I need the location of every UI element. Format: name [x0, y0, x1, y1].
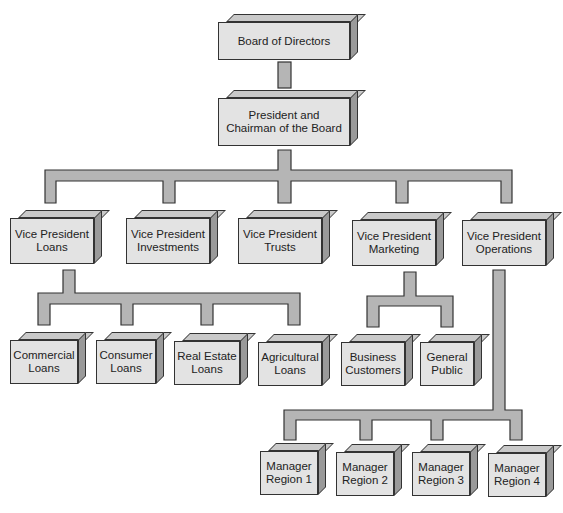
node-vp-marketing: Vice President Marketing	[352, 212, 444, 266]
node-label: Vice President Investments	[129, 228, 207, 254]
node-agricultural-loans: Agricultural Loans	[258, 334, 330, 386]
node-manager-region-4: Manager Region 4	[488, 445, 554, 497]
node-vp-operations: Vice President Operations	[462, 212, 554, 266]
node-president: President and Chairman of the Board	[218, 90, 358, 146]
node-label: Vice President Trusts	[241, 228, 319, 254]
node-manager-region-1: Manager Region 1	[260, 443, 326, 495]
node-label: Business Customers	[343, 351, 403, 377]
node-label: Agricultural Loans	[259, 351, 321, 377]
node-label: Vice President Operations	[465, 230, 543, 256]
node-consumer-loans: Consumer Loans	[96, 332, 164, 384]
node-label: Board of Directors	[236, 35, 333, 48]
node-label: Manager Region 4	[492, 462, 542, 488]
node-board-of-directors: Board of Directors	[218, 14, 358, 60]
node-real-estate-loans: Real Estate Loans	[174, 333, 248, 385]
node-commercial-loans: Commercial Loans	[10, 332, 86, 384]
node-label: Vice President Loans	[13, 228, 91, 254]
node-vp-loans: Vice President Loans	[10, 210, 102, 264]
node-vp-trusts: Vice President Trusts	[238, 210, 330, 264]
node-label: Manager Region 3	[416, 461, 466, 487]
node-label: Commercial Loans	[11, 349, 76, 375]
node-label: Vice President Marketing	[355, 230, 433, 256]
node-manager-region-3: Manager Region 3	[412, 444, 478, 496]
node-label: Consumer Loans	[97, 349, 154, 375]
node-label: President and Chairman of the Board	[224, 109, 344, 135]
node-vp-investments: Vice President Investments	[126, 210, 218, 264]
node-label: Real Estate Loans	[175, 350, 238, 376]
node-business-customers: Business Customers	[341, 334, 413, 386]
node-manager-region-2: Manager Region 2	[336, 444, 402, 496]
node-label: Manager Region 1	[264, 460, 314, 486]
node-label: General Public	[425, 351, 470, 377]
node-label: Manager Region 2	[340, 461, 390, 487]
node-general-public: General Public	[420, 334, 482, 386]
